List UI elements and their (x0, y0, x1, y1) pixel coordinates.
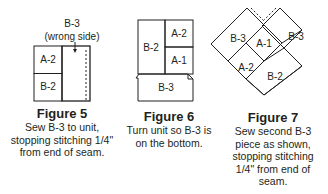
figure7-caption-line-2: piece as shown, (218, 138, 328, 151)
figure7-label-a2: A-2 (238, 62, 254, 73)
figure5-title: Figure 5 (0, 106, 124, 121)
figure5-diagram (34, 42, 90, 101)
figure5-label-b2: B-2 (40, 81, 56, 92)
figure7-label-b2: B-2 (267, 71, 283, 82)
arrow-down-icon (73, 49, 77, 53)
figure7-caption-line-1: Sew second B-3 (218, 125, 328, 138)
figure5-label-a2: A-2 (40, 54, 56, 65)
figure6-title: Figure 6 (124, 109, 214, 124)
figure5-caption-line-3: from end of seam. (0, 146, 124, 159)
figure7-label-b3-right: B-3 (288, 31, 304, 42)
figure7-label-b3-left: B-3 (230, 33, 246, 44)
figure6-caption-line-1: Turn unit so B-3 is (124, 124, 214, 137)
figure5-top-label: B-3 (64, 18, 80, 29)
figure6-caption-line-2: on the bottom. (124, 137, 214, 150)
figure5-caption-line-2: stopping stitching 1/4" (0, 134, 124, 147)
figure7-diagram (211, 8, 302, 95)
figure5-top-sublabel: (wrong side) (44, 31, 99, 42)
figure7-caption-line-5: seam. (218, 175, 328, 188)
figure6-label-b2: B-2 (143, 42, 159, 53)
figure6-label-a1: A-1 (171, 55, 187, 66)
figure5-caption: Figure 5 Sew B-3 to unit, stopping stitc… (0, 106, 124, 159)
figure7-caption-line-4: 1/4" from end of (218, 163, 328, 176)
figure6-caption: Figure 6 Turn unit so B-3 is on the bott… (124, 109, 214, 149)
figure7-title: Figure 7 (218, 110, 328, 125)
figure7-caption-line-3: stopping stitching (218, 150, 328, 163)
figure7-label-a1: A-1 (256, 38, 272, 49)
figure7-caption: Figure 7 Sew second B-3 piece as shown, … (218, 110, 328, 188)
figure6-label-a2: A-2 (171, 28, 187, 39)
figure5-caption-line-1: Sew B-3 to unit, (0, 121, 124, 134)
figure6-label-b3: B-3 (158, 82, 174, 93)
